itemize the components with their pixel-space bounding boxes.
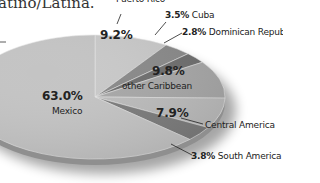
label-dominican-pct: 2.8%	[182, 27, 206, 37]
label-south-america-name: South America	[218, 151, 282, 161]
label-other-caribbean-pct: 9.8%	[152, 64, 184, 78]
label-south-america: 3.8% South America	[191, 151, 281, 161]
label-mexico-name: Mexico	[52, 106, 82, 116]
label-other-caribbean-name: other Caribbean	[122, 81, 192, 91]
label-dominican: 2.8% Dominican Republic	[182, 27, 283, 37]
label-puerto-rico-name: Puerto Rico	[116, 0, 165, 4]
label-central-america-name: Central America	[205, 120, 275, 130]
label-south-america-pct: 3.8%	[191, 151, 215, 161]
label-puerto-rico-pct: 9.2%	[100, 28, 132, 42]
leader-cuba	[155, 22, 166, 35]
label-dominican-name: Dominican Republic	[209, 27, 283, 37]
label-cuba-pct: 3.5%	[165, 10, 189, 20]
label-mexico-pct: 63.0%	[42, 89, 83, 103]
label-cuba-name: Cuba	[192, 10, 214, 20]
label-central-america-pct: 7.9%	[156, 106, 188, 120]
leader-puerto-rico	[117, 14, 121, 24]
label-cuba: 3.5% Cuba	[165, 10, 214, 20]
leader-dominican	[164, 33, 182, 43]
